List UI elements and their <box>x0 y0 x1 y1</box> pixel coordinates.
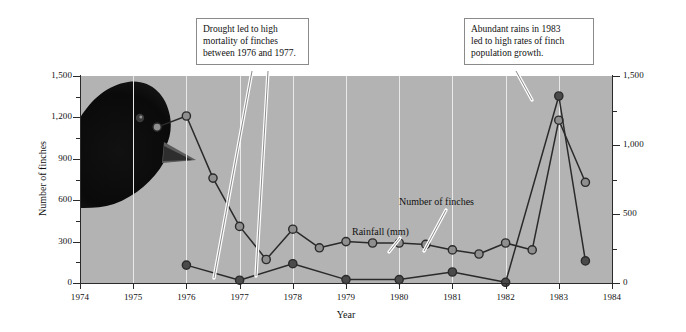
annotation-rains-line-1: Abundant rains in 1983 <box>471 23 587 35</box>
leader-abundant-rains <box>516 71 532 100</box>
finch-rainfall-chart: 03006009001,2001,50005001,0001,500197419… <box>0 0 686 332</box>
annotation-drought-line-3: between 1976 and 1977. <box>203 47 302 59</box>
annotation-rains-line-3: population growth. <box>471 47 587 59</box>
leader-drought-b <box>256 71 268 276</box>
annotation-drought-line-1: Drought led to high <box>203 23 302 35</box>
annotation-drought-line-2: mortality of finches <box>203 35 302 47</box>
annotation-rains-line-2: led to high rates of finch <box>471 35 587 47</box>
annotation-abundant-rains: Abundant rains in 1983 led to high rates… <box>464 18 594 65</box>
annotation-drought: Drought led to high mortality of finches… <box>196 18 309 65</box>
inline-label-rainfall: Rainfall (mm) <box>352 226 409 237</box>
leader-finches-label <box>424 210 446 251</box>
leader-drought-a <box>214 71 252 278</box>
leader-rainfall-label <box>389 238 400 252</box>
inline-label-finches: Number of finches <box>399 196 474 207</box>
